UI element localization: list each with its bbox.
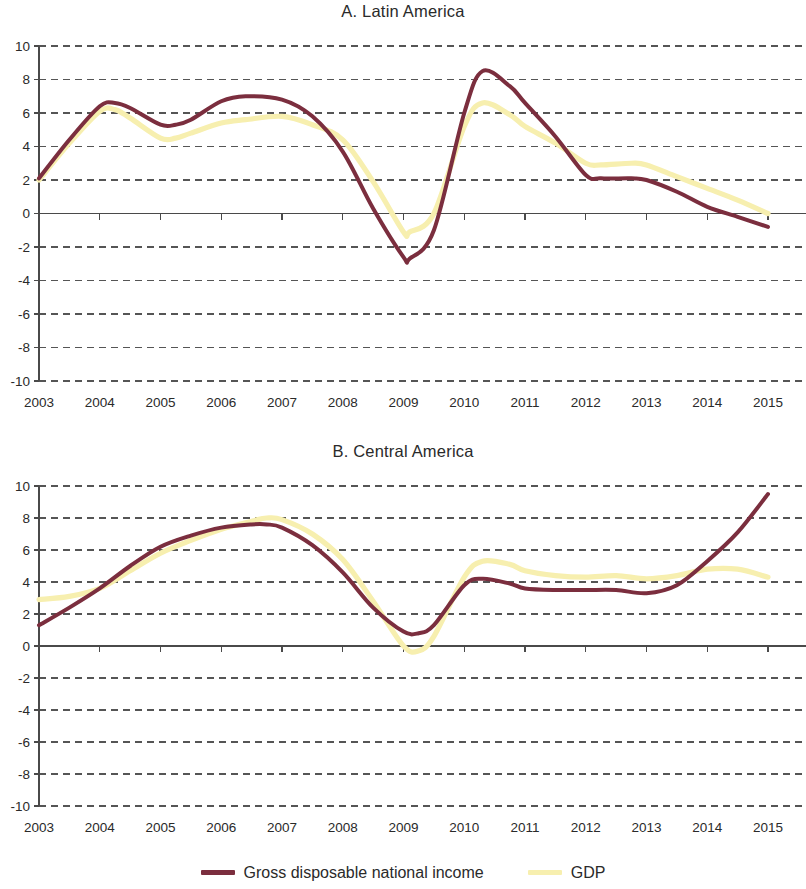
panel-a-plot-area: 1086420-2-4-6-8-102003200420052006200720…: [0, 24, 806, 414]
y-tick-label-6: 6: [22, 106, 30, 121]
y-tick-label-2: 2: [22, 607, 30, 622]
y-tick-label-4: 4: [22, 575, 30, 590]
legend-item-gdni: Gross disposable national income: [201, 864, 484, 882]
x-tick-label-2009: 2009: [388, 395, 418, 410]
x-tick-label-2010: 2010: [449, 820, 479, 835]
series-line-gdni: [39, 494, 768, 634]
y-tick-label--4: -4: [18, 273, 30, 288]
panel-a-title: A. Latin America: [0, 0, 806, 24]
x-tick-label-2006: 2006: [206, 820, 236, 835]
legend-label-gdni: Gross disposable national income: [244, 864, 484, 882]
y-tick-label-8: 8: [22, 511, 30, 526]
x-tick-label-2007: 2007: [267, 395, 297, 410]
legend-label-gdp: GDP: [571, 864, 606, 882]
x-tick-label-2004: 2004: [85, 395, 116, 410]
y-tick-label--8: -8: [18, 767, 30, 782]
x-tick-label-2014: 2014: [692, 820, 723, 835]
x-tick-label-2005: 2005: [145, 395, 175, 410]
y-tick-label-0: 0: [22, 639, 30, 654]
x-tick-label-2012: 2012: [571, 395, 601, 410]
x-tick-label-2015: 2015: [753, 395, 783, 410]
x-tick-label-2015: 2015: [753, 820, 783, 835]
x-tick-label-2007: 2007: [267, 820, 297, 835]
y-tick-label--2: -2: [18, 240, 30, 255]
y-tick-label-2: 2: [22, 173, 30, 188]
x-tick-label-2011: 2011: [510, 820, 539, 835]
y-tick-label--6: -6: [18, 735, 30, 750]
y-tick-label-6: 6: [22, 543, 30, 558]
legend-swatch-gdni: [201, 870, 235, 875]
y-tick-label--10: -10: [10, 374, 30, 389]
x-tick-label-2008: 2008: [328, 820, 358, 835]
x-tick-label-2009: 2009: [388, 820, 418, 835]
panel-b-plot-area: 1086420-2-4-6-8-102003200420052006200720…: [0, 464, 806, 839]
y-tick-label--10: -10: [10, 799, 30, 814]
x-tick-label-2011: 2011: [510, 395, 539, 410]
figure-page: A. Latin America 1086420-2-4-6-8-1020032…: [0, 0, 806, 889]
y-tick-label-10: 10: [15, 479, 30, 494]
x-tick-label-2013: 2013: [631, 820, 661, 835]
x-tick-label-2013: 2013: [631, 395, 661, 410]
x-tick-label-2003: 2003: [24, 395, 54, 410]
chart-legend: Gross disposable national income GDP: [0, 856, 806, 889]
x-tick-label-2014: 2014: [692, 395, 723, 410]
x-tick-label-2005: 2005: [145, 820, 175, 835]
x-tick-label-2012: 2012: [571, 820, 601, 835]
y-tick-label-4: 4: [22, 139, 30, 154]
y-tick-label-0: 0: [22, 206, 30, 221]
x-tick-label-2006: 2006: [206, 395, 236, 410]
x-tick-label-2008: 2008: [328, 395, 358, 410]
legend-item-gdp: GDP: [528, 864, 606, 882]
y-tick-label-10: 10: [15, 39, 30, 54]
panel-b-title: B. Central America: [0, 440, 806, 464]
y-tick-label-8: 8: [22, 72, 30, 87]
y-tick-label--4: -4: [18, 703, 30, 718]
y-tick-label--6: -6: [18, 307, 30, 322]
y-tick-label--2: -2: [18, 671, 30, 686]
x-tick-label-2004: 2004: [85, 820, 116, 835]
line-chart-latin-america: 1086420-2-4-6-8-102003200420052006200720…: [0, 24, 806, 414]
chart-panel-latin-america: A. Latin America 1086420-2-4-6-8-1020032…: [0, 0, 806, 415]
x-tick-label-2010: 2010: [449, 395, 479, 410]
y-tick-label--8: -8: [18, 340, 30, 355]
chart-panel-central-america: B. Central America 1086420-2-4-6-8-10200…: [0, 440, 806, 840]
legend-swatch-gdp: [528, 870, 562, 875]
line-chart-central-america: 1086420-2-4-6-8-102003200420052006200720…: [0, 464, 806, 839]
x-tick-label-2003: 2003: [24, 820, 54, 835]
